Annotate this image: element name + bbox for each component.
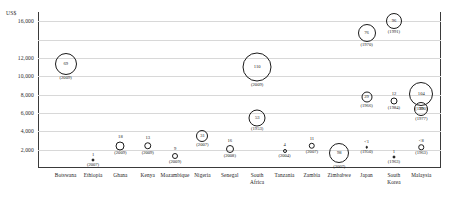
bubble-marker [309, 143, 316, 150]
data-point-year: (2009) [251, 83, 263, 88]
data-point-value: 53 [255, 115, 260, 120]
data-point-value: 29 [364, 95, 369, 100]
bubble-chart: US$ 16,00012,00010,0008,0006,0004,0002,0… [0, 0, 449, 204]
data-point-year: (2007) [196, 143, 208, 148]
data-point-value: 16 [228, 139, 233, 144]
data-point-value: 110 [254, 65, 261, 70]
data-point-year: (2008) [224, 154, 236, 159]
y-axis-tick-label: 4,000 [21, 128, 38, 134]
x-axis-label: Mozambique [161, 172, 190, 179]
y-axis-tick-label: 10,000 [18, 73, 38, 79]
x-axis-label: Malaysia [411, 172, 431, 179]
data-point-year: (2009) [169, 160, 181, 165]
data-point-year: (1963) [415, 151, 427, 156]
y-axis-tick-label: 6,000 [21, 110, 38, 116]
x-axis-label: Tanzania [275, 172, 295, 179]
y-axis-tick-label: 2,000 [21, 147, 38, 153]
data-point-year: (1966) [360, 104, 372, 109]
gridline [38, 76, 441, 77]
data-point-value: 13 [145, 136, 150, 141]
data-point-year: (2009) [60, 76, 72, 81]
x-axis-label: Japan [360, 172, 373, 179]
gridline [38, 113, 441, 114]
x-axis-label: Kenya [141, 172, 155, 179]
data-point-year: (2004) [278, 154, 290, 159]
data-point-year: (2007) [87, 163, 99, 168]
data-point-value: 96 [392, 18, 397, 23]
x-axis-label: Ghana [113, 172, 127, 179]
data-point-value: <8 [419, 139, 424, 144]
data-point-year: (2007) [306, 150, 318, 155]
gridline [38, 40, 441, 41]
bubble-marker [172, 153, 178, 159]
data-point-value: 11 [310, 137, 314, 142]
data-point-value: 12 [392, 92, 397, 97]
x-axis-label: Zimbabwe [328, 172, 351, 179]
data-point-year: (2009) [142, 151, 154, 156]
x-axis-label: Nigeria [194, 172, 211, 179]
data-point-year: (1963) [388, 160, 400, 165]
bubble-marker [226, 145, 234, 153]
y-axis-tick-label: 16,000 [18, 18, 38, 24]
data-point-value: 76 [364, 30, 369, 35]
y-axis-tick-label: 8,000 [21, 92, 38, 98]
x-axis-label: Ethiopia [84, 172, 103, 179]
data-point-value: <1 [364, 140, 369, 145]
data-point-value: 9 [174, 147, 176, 152]
data-point-value: 104 [418, 91, 425, 96]
data-point-value: 1 [92, 153, 94, 158]
x-axis-label: South Korea [387, 172, 400, 186]
data-point-year: (1977) [415, 117, 427, 122]
data-point-value: 18 [118, 135, 123, 140]
data-point-year: (1953) [251, 127, 263, 132]
plot-area: US$ 16,00012,00010,0008,0006,0004,0002,0… [38, 12, 441, 168]
data-point-year: (1950) [360, 150, 372, 155]
x-axis-labels: BotswanaEthiopiaGhanaKenyaMozambiqueNige… [38, 172, 441, 202]
data-point-year: (1970) [360, 43, 372, 48]
bubble-marker [144, 142, 152, 150]
x-axis-label: Zambia [304, 172, 321, 179]
gridline [38, 95, 441, 96]
data-point-year: (2007) [333, 165, 345, 170]
gridline [38, 131, 441, 132]
data-point-value: 4 [283, 143, 285, 148]
y-axis-line [38, 12, 39, 168]
data-point-year: (1984) [388, 106, 400, 111]
gridline [38, 150, 441, 151]
data-point-value: 1 [393, 150, 395, 155]
x-axis-label: Botswana [55, 172, 77, 179]
x-axis-label: Senegal [221, 172, 238, 179]
data-point-value: 69 [63, 62, 68, 67]
data-point-year: (2009) [114, 151, 126, 156]
y-axis-title: US$ [6, 10, 16, 16]
bubble-marker [116, 141, 125, 150]
data-point-year: (1991) [388, 30, 400, 35]
data-point-value: 98 [337, 151, 342, 156]
x-axis-label: South Africa [250, 172, 264, 186]
gridline [38, 58, 441, 59]
plot-right-border [440, 12, 441, 168]
gridline [38, 21, 441, 22]
y-axis-tick-label: 12,000 [18, 55, 38, 61]
bubble-marker [419, 145, 425, 151]
bubble-marker [390, 98, 397, 105]
data-point-value: 31 [200, 134, 205, 139]
data-point-value: 39 [419, 107, 424, 112]
